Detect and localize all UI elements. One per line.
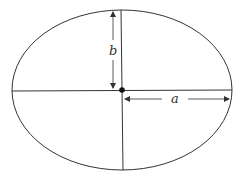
ellipse-diagram: b a [0,0,234,178]
semi-major-label: a [171,91,179,106]
center-point [119,87,125,93]
semi-minor-label: b [109,43,117,58]
